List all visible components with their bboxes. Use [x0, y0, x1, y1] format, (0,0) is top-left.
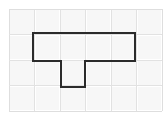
grid-cell — [36, 61, 60, 85]
grid-cell — [87, 10, 111, 34]
grid-cell — [87, 36, 111, 60]
grid-cell — [36, 36, 60, 60]
grid-cell — [61, 87, 85, 111]
grid-cell — [138, 61, 162, 85]
grid-cell — [36, 10, 60, 34]
grid-cell — [10, 87, 34, 111]
grid-cell — [87, 87, 111, 111]
grid-shape-figure: T-shaped polygon on square grid — [0, 0, 166, 119]
grid-cell — [61, 10, 85, 34]
figure-container: T-shaped polygon on square grid — [0, 0, 166, 119]
grid-cell — [10, 36, 34, 60]
grid-cell — [87, 61, 111, 85]
grid-cell — [10, 10, 34, 34]
grid-cell — [112, 36, 136, 60]
grid-cell — [61, 61, 85, 85]
grid-cell — [10, 61, 34, 85]
grid-cell — [138, 10, 162, 34]
grid-cell — [61, 36, 85, 60]
grid-cell — [138, 36, 162, 60]
grid-cell — [112, 87, 136, 111]
grid-cell — [112, 61, 136, 85]
grid-cell — [138, 87, 162, 111]
grid-cell — [112, 10, 136, 34]
grid-cell — [36, 87, 60, 111]
